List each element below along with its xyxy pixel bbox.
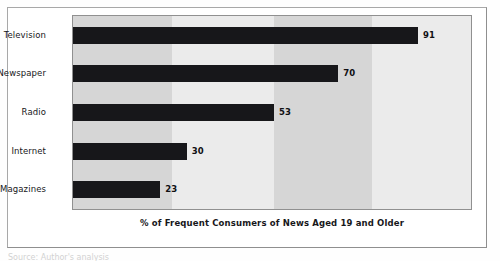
bar-row [73,27,471,44]
x-axis-label: % of Frequent Consumers of News Aged 19 … [72,218,472,228]
bar-row [73,181,471,198]
bars-layer [73,16,471,209]
bar-magazines [73,181,160,198]
figure-frame: Television91Newspaper70Radio53Internet30… [7,7,487,248]
bar-newspaper [73,65,338,82]
value-label-television: 91 [423,30,435,40]
category-label-magazines: Magazines [0,184,46,194]
category-label-newspaper: Newspaper [0,68,46,78]
category-label-radio: Radio [0,107,46,117]
bar-radio [73,104,274,121]
bar-internet [73,143,187,160]
plot-area [72,15,472,210]
bar-television [73,27,418,44]
bar-row [73,104,471,121]
value-label-magazines: 23 [165,184,177,194]
category-label-television: Television [0,30,46,40]
scan-footer-text: Source: Author's analysis [8,253,308,261]
value-label-radio: 53 [279,107,291,117]
value-label-internet: 30 [192,146,204,156]
bar-row [73,143,471,160]
category-label-internet: Internet [0,146,46,156]
chart-figure: Television91Newspaper70Radio53Internet30… [0,0,500,261]
bar-row [73,65,471,82]
value-label-newspaper: 70 [343,68,355,78]
